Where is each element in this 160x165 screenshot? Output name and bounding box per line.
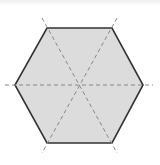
hexagon-diagram [0, 0, 160, 165]
